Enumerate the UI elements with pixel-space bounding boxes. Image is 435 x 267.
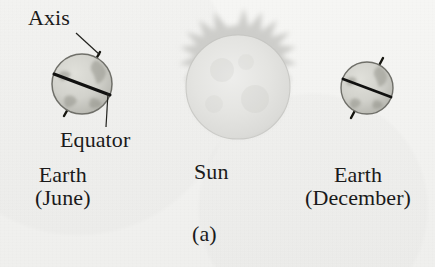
figure-caption: (a) [192,222,217,245]
earth-december-label: Earth (December) [305,163,411,210]
equator-label: Equator [60,128,130,151]
earth-june-label-line1: Earth [35,163,91,186]
figure-canvas: Axis Equator Sun Earth (June) Earth (Dec… [0,0,435,267]
axis-leader-line [76,33,100,55]
earth-june-graphic [52,52,112,116]
earth-december-label-line1: Earth [305,163,411,186]
axis-label: Axis [28,6,70,29]
earth-december-label-line2: (December) [305,186,411,209]
earth-june-label: Earth (June) [35,163,91,210]
earth-december-graphic [341,58,393,118]
sun-graphic [179,8,297,143]
earth-june-label-line2: (June) [35,186,91,209]
sun-label: Sun [194,160,229,183]
